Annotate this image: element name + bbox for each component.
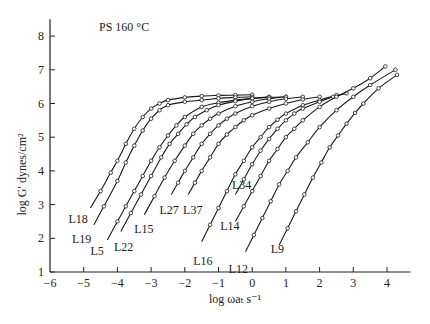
data-point — [149, 107, 153, 111]
data-point — [267, 159, 271, 163]
series-label-l27: L27 — [160, 203, 179, 218]
data-point — [200, 142, 204, 146]
data-point — [242, 159, 246, 163]
data-point — [301, 107, 305, 111]
data-point — [141, 174, 145, 178]
data-point — [259, 149, 263, 153]
data-point — [394, 68, 398, 72]
data-point — [159, 156, 163, 160]
data-point — [158, 108, 162, 112]
data-point — [166, 98, 170, 102]
data-point — [183, 169, 187, 173]
data-point — [286, 226, 290, 230]
series-label-l19: L19 — [72, 232, 91, 247]
data-point — [311, 176, 315, 180]
data-point — [200, 105, 204, 109]
data-point — [176, 181, 180, 185]
data-point — [139, 193, 143, 197]
data-point — [208, 223, 212, 227]
data-point — [234, 112, 238, 116]
data-point — [225, 133, 229, 137]
data-point — [353, 111, 357, 115]
series-label-l12: L12 — [229, 262, 248, 277]
series-label-l5: L5 — [90, 244, 103, 259]
data-point — [141, 115, 145, 119]
data-point — [225, 117, 229, 121]
data-point — [293, 112, 297, 116]
data-point — [217, 97, 221, 101]
data-point — [133, 144, 137, 148]
data-point — [191, 132, 195, 136]
data-point — [217, 206, 221, 210]
data-point — [183, 96, 187, 100]
x-tick-label: −1 — [212, 276, 225, 291]
data-point — [250, 162, 254, 166]
data-point — [234, 99, 238, 103]
series-label-l34: L34 — [232, 178, 251, 193]
data-point — [284, 112, 288, 116]
data-point — [109, 171, 113, 175]
data-point — [158, 102, 162, 106]
data-point — [276, 118, 280, 122]
data-point — [276, 147, 280, 151]
x-tick-label: −3 — [145, 276, 158, 291]
data-point — [116, 220, 120, 224]
data-point — [124, 205, 128, 209]
data-point — [200, 169, 204, 173]
y-tick-label: 4 — [38, 163, 44, 178]
data-point — [303, 193, 307, 197]
data-point — [208, 117, 212, 121]
data-point — [217, 103, 221, 107]
data-point — [116, 179, 120, 183]
data-point — [301, 119, 305, 123]
data-point — [284, 119, 288, 123]
data-point — [200, 94, 204, 98]
data-point — [133, 127, 137, 131]
series-curve-l5 — [107, 97, 269, 240]
data-point — [318, 125, 322, 129]
data-point — [320, 161, 324, 165]
series-label-l18: L18 — [69, 212, 88, 227]
data-point — [158, 146, 162, 150]
data-point — [328, 146, 332, 150]
data-point — [335, 95, 339, 99]
data-point — [185, 123, 189, 127]
data-point — [284, 97, 288, 101]
data-point — [193, 115, 197, 119]
y-axis-label: log G′ dynes/cm² — [15, 120, 30, 230]
data-point — [259, 174, 263, 178]
data-point — [102, 205, 106, 209]
data-point — [205, 108, 209, 112]
data-point — [318, 105, 322, 109]
data-point — [183, 100, 187, 104]
x-tick-label: −6 — [44, 276, 57, 291]
data-point — [149, 174, 153, 178]
chart-title: PS 160 °C — [99, 20, 149, 35]
data-point — [149, 117, 153, 121]
data-point — [153, 194, 157, 198]
data-point — [286, 169, 290, 173]
data-point — [277, 183, 281, 187]
y-tick-label: 2 — [38, 231, 44, 246]
data-point — [284, 102, 288, 106]
x-axis-label: log ωaₜ s⁻¹ — [209, 292, 261, 307]
data-point — [208, 132, 212, 136]
data-point — [368, 76, 372, 80]
data-point — [217, 112, 221, 116]
y-tick-label: 7 — [38, 62, 44, 77]
data-point — [149, 159, 153, 163]
x-tick-label: −2 — [178, 276, 191, 291]
data-point — [306, 141, 310, 145]
data-point — [301, 98, 305, 102]
data-point — [267, 125, 271, 129]
data-point — [193, 181, 197, 185]
data-point — [166, 134, 170, 138]
series-curve-l15 — [144, 97, 286, 215]
x-tick-label: −4 — [111, 276, 124, 291]
data-point — [267, 100, 271, 104]
data-point — [294, 156, 298, 160]
data-point — [318, 100, 322, 104]
data-point — [191, 156, 195, 160]
data-point — [267, 107, 271, 111]
data-point — [259, 135, 263, 139]
